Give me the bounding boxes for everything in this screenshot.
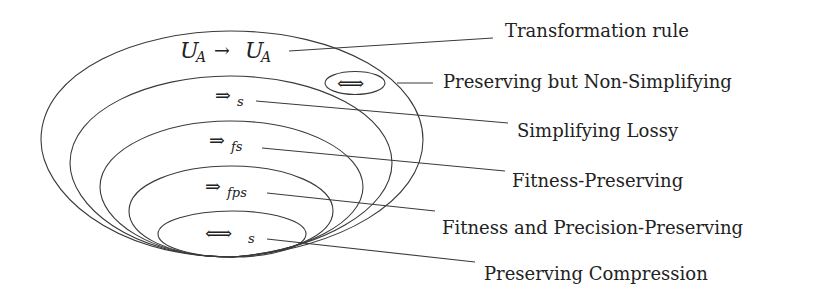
symbol-preserving-compression: ⟺ s <box>205 222 255 246</box>
svg-text:s: s <box>237 94 244 109</box>
svg-text:A: A <box>259 49 271 65</box>
svg-text:⇒: ⇒ <box>205 175 221 197</box>
label-fitness-preserving: Fitness-Preserving <box>512 170 683 191</box>
label-simplifying-lossy: Simplifying Lossy <box>517 120 679 141</box>
svg-text:fps: fps <box>226 185 247 200</box>
symbol-simplifying-lossy: ⇒ s <box>215 84 244 109</box>
nested-sets-diagram: U A → U A ⟺ ⇒ s ⇒ fs ⇒ fps ⟺ s Transform… <box>0 0 823 304</box>
label-fitness-precision-preserving: Fitness and Precision-Preserving <box>442 217 743 238</box>
svg-text:⟺: ⟺ <box>205 222 232 244</box>
leader-simplifying-lossy <box>256 101 508 123</box>
label-preserving-non-simplifying: Preserving but Non-Simplifying <box>443 71 732 92</box>
symbol-fitness-preserving: ⇒ fs <box>209 129 243 154</box>
symbol-preserving-non-simplifying: ⟺ <box>337 72 364 94</box>
symbol-transformation-rule: U A → U A <box>180 38 271 65</box>
leader-fitness-precision-preserving <box>267 193 435 211</box>
leader-transformation-rule <box>289 38 493 51</box>
svg-text:fs: fs <box>230 139 243 154</box>
svg-text:⇒: ⇒ <box>215 84 231 106</box>
svg-text:s: s <box>248 231 255 246</box>
svg-text:⇒: ⇒ <box>209 129 225 151</box>
leader-preserving-compression <box>267 239 475 262</box>
label-preserving-compression: Preserving Compression <box>484 263 708 284</box>
leader-fitness-preserving <box>262 148 505 171</box>
svg-text:A: A <box>194 49 206 65</box>
symbol-fitness-precision-preserving: ⇒ fps <box>205 175 247 200</box>
svg-text:→: → <box>214 39 230 61</box>
label-transformation-rule: Transformation rule <box>505 20 689 41</box>
